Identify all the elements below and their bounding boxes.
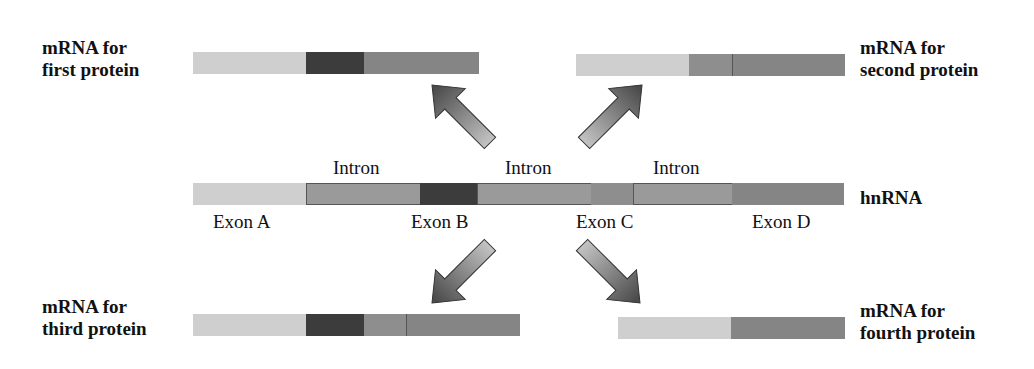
intron-3-label: Intron [653, 157, 699, 179]
exon-a-segment [193, 183, 306, 205]
mrna-second-bar [0, 54, 1034, 76]
intron-1-label: Intron [333, 157, 379, 179]
exon-d-segment [733, 54, 845, 76]
arrow-to-second-protein-icon [569, 70, 657, 158]
exon-a-segment [618, 317, 731, 339]
arrow-to-first-protein-icon [417, 70, 505, 158]
arrow-to-third-protein-icon [417, 230, 505, 318]
exon-d-segment [732, 183, 844, 205]
intron-2-label: Intron [505, 157, 551, 179]
exon-c-label: Exon C [576, 211, 634, 233]
intron-2-segment [477, 183, 592, 205]
hnrna-label: hnRNA [860, 187, 922, 209]
exon-b-label: Exon B [411, 211, 469, 233]
exon-b-segment [420, 183, 477, 205]
exon-d-segment [731, 317, 845, 339]
arrow-to-fourth-protein-icon [567, 230, 655, 318]
intron-3-segment [633, 183, 733, 205]
mrna-fourth-bar [0, 317, 1034, 339]
exon-d-label: Exon D [752, 211, 811, 233]
exon-c-segment [689, 54, 733, 76]
exon-a-label: Exon A [213, 211, 271, 233]
exon-a-segment [576, 54, 689, 76]
exon-c-segment [591, 183, 633, 205]
intron-1-segment [306, 183, 421, 205]
